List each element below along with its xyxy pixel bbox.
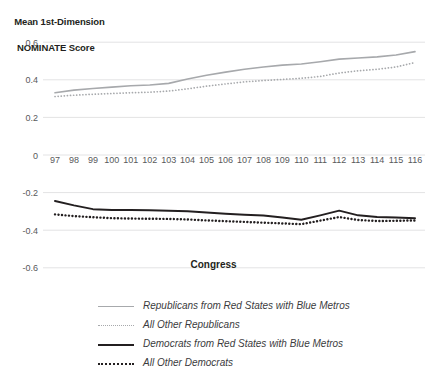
- legend-line-swatch: [98, 358, 134, 368]
- legend-item-label: All Other Democrats: [143, 357, 233, 368]
- legend-line-swatch: [98, 301, 134, 311]
- x-axis-title: Congress: [0, 259, 427, 270]
- x-axis-tick-label: 104: [180, 155, 195, 165]
- x-axis-tick-label: 111: [313, 155, 327, 165]
- legend-line-swatch: [98, 339, 134, 349]
- x-axis-tick-label: 116: [408, 155, 422, 165]
- series-line: [55, 201, 415, 220]
- x-axis-tick-label: 115: [389, 155, 403, 165]
- nominate-score-line-chart: Mean 1st-Dimension NOMINATE Score 0.60.4…: [0, 0, 427, 375]
- x-axis-tick-label: 113: [351, 155, 365, 165]
- legend-item[interactable]: All Other Republicans: [0, 315, 427, 334]
- x-axis-tick-label: 101: [123, 155, 138, 165]
- legend-item[interactable]: All Other Democrats: [0, 353, 427, 372]
- legend-line-swatch: [98, 320, 134, 330]
- legend-item[interactable]: Republicans from Red States with Blue Me…: [0, 296, 427, 315]
- y-axis-tick-label: 0.6: [25, 38, 38, 48]
- legend-item-label: Democrats from Red States with Blue Metr…: [143, 338, 343, 349]
- x-axis-tick-label: 97: [50, 155, 60, 165]
- legend-item-label: Republicans from Red States with Blue Me…: [143, 300, 350, 311]
- x-axis-tick-label: 105: [199, 155, 214, 165]
- x-axis-tick-label: 98: [69, 155, 79, 165]
- y-axis-tick-label: -0.2: [22, 188, 38, 198]
- y-axis-tick-label: 0.2: [25, 113, 38, 123]
- x-axis-tick-label: 100: [104, 155, 119, 165]
- x-axis-tick-label: 103: [161, 155, 176, 165]
- chart-legend: Republicans from Red States with Blue Me…: [0, 296, 427, 372]
- x-axis-tick-label: 102: [142, 155, 157, 165]
- x-axis-tick-label: 107: [237, 155, 252, 165]
- x-axis-tick-label: 99: [88, 155, 98, 165]
- x-axis-tick-label: 114: [370, 155, 384, 165]
- series-line: [55, 52, 415, 93]
- x-axis-tick-label: 110: [294, 155, 308, 165]
- y-axis-tick-label: 0.4: [25, 75, 38, 85]
- x-axis-tick-label: 106: [218, 155, 233, 165]
- x-axis-tick-label: 108: [256, 155, 271, 165]
- x-axis-tick-label: 109: [275, 155, 290, 165]
- legend-item[interactable]: Democrats from Red States with Blue Metr…: [0, 334, 427, 353]
- y-axis-tick-label: -0.4: [22, 226, 38, 236]
- x-axis-tick-label: 112: [332, 155, 346, 165]
- y-axis-tick-label: 0: [33, 151, 38, 161]
- legend-item-label: All Other Republicans: [143, 319, 240, 330]
